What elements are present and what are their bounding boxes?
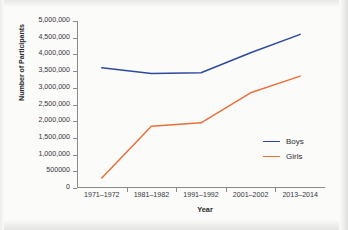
plot-area: BoysGirls — [77, 21, 325, 188]
x-axis-tick-label: 2013–2014 — [282, 191, 318, 199]
y-axis-tick-label: 3,500,000 — [18, 67, 70, 74]
series-line-boys — [102, 34, 300, 73]
x-axis-tick-label: 1981–1982 — [134, 191, 170, 199]
legend-swatch-boys — [263, 141, 280, 142]
y-axis-tick — [73, 188, 77, 189]
y-axis-tick — [73, 171, 77, 172]
y-axis-tick-label: 3,000,000 — [18, 84, 70, 91]
x-axis-title: Year — [80, 205, 330, 214]
y-axis-tick — [73, 38, 77, 39]
y-axis-tick — [73, 138, 77, 139]
legend-item-girls[interactable]: Girls — [263, 149, 325, 164]
legend-swatch-girls — [263, 156, 280, 157]
x-axis-tick-label: 1991–1992 — [183, 191, 219, 199]
y-axis-tick-label: 1,500,000 — [18, 134, 70, 141]
y-axis-tick — [73, 121, 77, 122]
y-axis-tick — [73, 21, 77, 22]
legend-label: Boys — [286, 137, 304, 146]
y-axis-tick-label: 5,000,000 — [18, 17, 70, 24]
y-axis-tick-label: 500000 — [18, 167, 70, 174]
legend-label: Girls — [286, 152, 302, 161]
y-axis-tick — [73, 88, 77, 89]
y-axis-tick — [73, 155, 77, 156]
x-axis-tick-label: 1971–1972 — [84, 191, 120, 199]
y-axis-tick-label: 1,000,000 — [18, 151, 70, 158]
x-axis-tick-label: 2001–2002 — [233, 191, 269, 199]
line-chart: Number of Participants 05000001,000,0001… — [0, 0, 348, 230]
y-axis-tick-label: 4,500,000 — [18, 34, 70, 41]
y-axis-tick — [73, 54, 77, 55]
y-axis-tick-label: 4,000,000 — [18, 50, 70, 57]
x-axis-tick-labels: 1971–19721981–19821991–19922001–20022013… — [0, 191, 348, 205]
chart-legend: BoysGirls — [263, 134, 325, 164]
y-axis-tick-label: 2,500,000 — [18, 101, 70, 108]
y-axis-tick — [73, 71, 77, 72]
y-axis-tick-label: 2,000,000 — [18, 117, 70, 124]
scanned-page: Number of Participants 05000001,000,0001… — [0, 0, 348, 230]
y-axis-tick — [73, 105, 77, 106]
legend-item-boys[interactable]: Boys — [263, 134, 325, 149]
